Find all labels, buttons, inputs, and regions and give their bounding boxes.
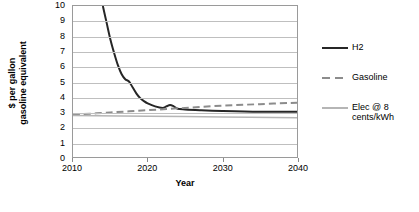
legend-label: Elec @ 8 cents/kWh	[352, 102, 394, 122]
legend-swatch-icon	[322, 103, 348, 113]
x-axis-tick	[147, 158, 148, 162]
y-axis-tick-label: 0	[60, 154, 65, 163]
y-axis-tick-label: 7	[60, 46, 65, 55]
x-axis-tick	[298, 158, 299, 162]
gridline	[73, 144, 297, 145]
y-axis-title-line1: $ per gallon	[7, 41, 18, 125]
gridline	[73, 128, 297, 129]
x-axis-tick-label: 2020	[137, 163, 157, 174]
gridline	[73, 83, 297, 84]
legend-entry[interactable]: Gasoline	[322, 72, 388, 83]
x-axis-tick-label: 2040	[288, 163, 308, 174]
x-axis-tick	[223, 158, 224, 162]
gridline	[73, 98, 297, 99]
y-axis-tick-label: 8	[60, 31, 65, 40]
gridline	[73, 113, 297, 114]
gridline	[73, 52, 297, 53]
series-line-elec-8-cents-kwh	[73, 115, 297, 117]
legend-entry[interactable]: H2	[322, 42, 364, 53]
plot-area	[72, 5, 298, 158]
gridline	[73, 67, 297, 68]
y-axis-tick-label: 10	[55, 1, 65, 10]
legend-label: H2	[352, 42, 364, 52]
y-axis-tick-label: 9	[60, 16, 65, 25]
x-axis-title: Year	[72, 178, 298, 189]
y-axis-tick-label: 6	[60, 62, 65, 71]
legend-swatch-icon	[322, 73, 348, 83]
legend-entry[interactable]: Elec @ 8 cents/kWh	[322, 102, 394, 122]
gridline	[73, 37, 297, 38]
y-axis-tick-label: 3	[60, 108, 65, 117]
y-axis-title-line2: gasoline equivalent	[18, 41, 29, 125]
legend-label: Gasoline	[352, 72, 388, 82]
y-axis-tick-label: 2	[60, 123, 65, 132]
x-axis-tick-labels: 2010202020302040	[0, 163, 419, 175]
chart-container: $ per gallon gasoline equivalent 0123456…	[0, 0, 419, 212]
x-axis-tick	[72, 158, 73, 162]
y-axis-tick-label: 5	[60, 77, 65, 86]
x-axis-tick-label: 2010	[62, 163, 82, 174]
y-axis-tick-labels: 012345678910	[38, 0, 68, 163]
y-axis-tick-label: 1	[60, 138, 65, 147]
plot-series-layer	[73, 6, 297, 157]
x-axis-tick-label: 2030	[213, 163, 233, 174]
gridline	[73, 21, 297, 22]
y-axis-title: $ per gallon gasoline equivalent	[0, 0, 36, 165]
legend-swatch-icon	[322, 43, 348, 53]
y-axis-tick-label: 4	[60, 92, 65, 101]
